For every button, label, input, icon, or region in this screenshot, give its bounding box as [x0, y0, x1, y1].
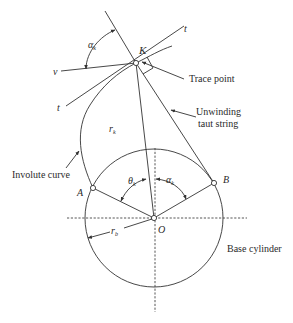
point-K: [133, 60, 138, 65]
label-v: v: [53, 66, 58, 77]
label-base-cylinder: Base cylinder: [227, 243, 282, 254]
label-B: B: [223, 174, 229, 185]
involute-diagram: K t v t αk Trace point Unwinding taut st…: [0, 0, 293, 323]
normal-line: [105, 11, 136, 63]
rb-leader-2: [124, 219, 152, 228]
point-B: [211, 180, 216, 185]
point-O: [151, 215, 156, 220]
label-t-top: t: [184, 23, 187, 34]
label-theta-k: θk: [128, 175, 136, 187]
label-r-b: rb: [111, 225, 118, 237]
label-K: K: [138, 44, 147, 56]
label-r-k: rk: [109, 123, 116, 135]
label-alpha-k-top: αk: [88, 39, 96, 51]
point-A: [90, 185, 95, 190]
label-alpha-k: αk: [166, 174, 174, 186]
involute-leader: [66, 151, 79, 168]
radius-OB: [154, 183, 214, 218]
rb-leader: [88, 232, 110, 238]
label-involute-curve: Involute curve: [12, 169, 71, 180]
label-t-left: t: [57, 102, 60, 113]
label-A: A: [76, 187, 84, 198]
radius-OA: [93, 188, 154, 218]
taut-string-leader: [171, 110, 196, 117]
label-trace-point: Trace point: [189, 73, 235, 84]
label-O: O: [158, 224, 165, 235]
label-unwinding: Unwinding: [196, 106, 241, 117]
tangent-line: [66, 26, 184, 106]
label-taut-string: taut string: [198, 118, 238, 129]
